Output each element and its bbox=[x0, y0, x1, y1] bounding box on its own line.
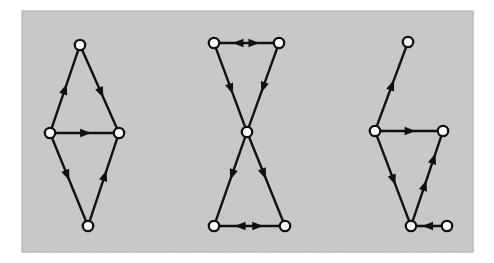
graph-node bbox=[209, 38, 219, 48]
graph-node bbox=[370, 126, 380, 136]
graph-node bbox=[442, 221, 452, 231]
graph-node bbox=[280, 221, 290, 231]
graph-node bbox=[45, 128, 55, 138]
graph-node bbox=[83, 221, 93, 231]
figure-root bbox=[0, 0, 494, 263]
graph-figure-canvas bbox=[0, 0, 494, 263]
graph-node bbox=[274, 38, 284, 48]
graph-node bbox=[406, 221, 416, 231]
graph-node bbox=[209, 221, 219, 231]
graph-node bbox=[75, 40, 85, 50]
graph-node bbox=[114, 128, 124, 138]
graph-node bbox=[403, 37, 413, 47]
graph-node bbox=[438, 126, 448, 136]
graph-node bbox=[242, 127, 252, 137]
